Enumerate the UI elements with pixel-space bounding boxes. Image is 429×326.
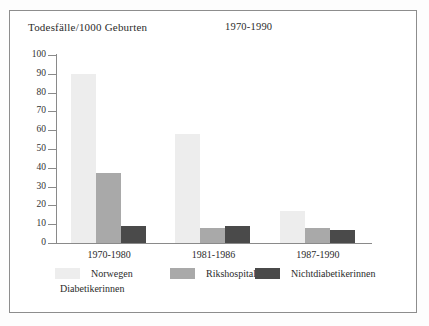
legend-swatch xyxy=(170,268,195,279)
chart-period-label: 1970-1990 xyxy=(225,21,272,32)
y-axis-tick-label: 70 xyxy=(37,106,47,116)
bar xyxy=(305,228,330,243)
bar xyxy=(200,228,225,243)
y-axis-tick xyxy=(48,149,56,150)
legend-item: Rikshospitalet xyxy=(170,268,263,279)
chart-figure: Todesfälle/1000 Geburten 1970-1990 01020… xyxy=(0,0,429,326)
x-axis-tick-label: 1987-1990 xyxy=(266,249,370,260)
bar xyxy=(280,211,305,243)
y-axis-tick xyxy=(48,55,56,56)
bar xyxy=(225,226,250,243)
bar-group xyxy=(266,55,370,243)
y-axis-tick-label: 90 xyxy=(37,69,47,79)
y-axis-tick xyxy=(48,187,56,188)
legend-swatch xyxy=(55,268,80,279)
legend-item: Nichtdiabetikerinnen xyxy=(255,268,375,279)
legend-label: Norwegen xyxy=(91,268,133,279)
x-axis-tick-label: 1981-1986 xyxy=(161,249,265,260)
y-axis-tick-label: 0 xyxy=(41,238,46,248)
chart-legend: Diabetikerinnen NorwegenRikshospitaletNi… xyxy=(0,268,429,314)
y-axis-tick xyxy=(48,93,56,94)
legend-item: Norwegen xyxy=(55,268,133,279)
bar xyxy=(96,173,121,243)
y-axis-tick-label: 20 xyxy=(37,200,47,210)
y-axis-tick-label: 50 xyxy=(37,144,47,154)
bar xyxy=(121,226,146,243)
plot-area xyxy=(57,55,370,243)
y-axis-tick xyxy=(48,168,56,169)
y-axis-tick xyxy=(48,205,56,206)
y-axis-tick xyxy=(48,243,56,244)
x-axis-line xyxy=(56,243,372,244)
x-axis-tick-label: 1970-1980 xyxy=(57,249,161,260)
bar-group xyxy=(57,55,161,243)
y-axis-tick-label: 80 xyxy=(37,88,47,98)
legend-subtitle: Diabetikerinnen xyxy=(60,283,124,294)
bar xyxy=(175,134,200,243)
bar-group xyxy=(161,55,265,243)
y-axis-tick-label: 100 xyxy=(32,50,46,60)
bar xyxy=(71,74,96,243)
y-axis-tick xyxy=(48,111,56,112)
y-axis-tick-label: 30 xyxy=(37,182,47,192)
y-axis-tick xyxy=(48,74,56,75)
bar xyxy=(330,230,355,243)
legend-label: Nichtdiabetikerinnen xyxy=(291,268,375,279)
legend-swatch xyxy=(255,268,280,279)
y-axis-tick xyxy=(48,130,56,131)
y-axis-tick-label: 40 xyxy=(37,163,47,173)
y-axis-tick xyxy=(48,224,56,225)
y-axis-tick-label: 10 xyxy=(37,219,47,229)
y-axis-tick-label: 60 xyxy=(37,125,47,135)
